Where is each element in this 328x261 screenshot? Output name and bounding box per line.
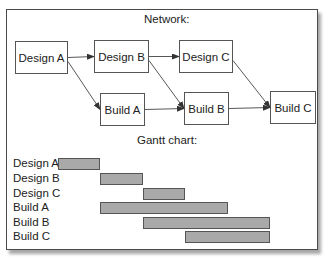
node-design-b: Design B [94, 40, 149, 73]
node-label: Design B [98, 51, 145, 63]
node-label: Build B [188, 103, 224, 115]
node-label: Build C [274, 102, 311, 114]
gantt-bar-design-b [100, 173, 142, 185]
gantt-row-label: Build A [13, 201, 49, 213]
edge-design_c-to-build_c [233, 61, 270, 108]
node-label: Design C [182, 51, 229, 63]
node-build-b: Build B [184, 92, 229, 125]
gantt-row-label: Design B [13, 172, 60, 184]
gantt-row-label: Design C [13, 187, 60, 199]
gantt-title: Gantt chart: [137, 134, 197, 146]
node-build-a: Build A [100, 93, 145, 126]
gantt-row-label: Design A [13, 157, 59, 169]
gantt-bar-build-c [185, 231, 270, 243]
gantt-bar-design-c [143, 188, 185, 200]
node-design-a: Design A [15, 41, 68, 74]
node-design-c: Design C [179, 40, 233, 73]
node-label: Build A [105, 104, 141, 116]
node-label: Design A [18, 52, 64, 64]
gantt-bar-design-a [58, 158, 100, 170]
gantt-row-label: Build C [13, 230, 50, 242]
gantt-bar-build-b [143, 217, 270, 229]
edge-design_a-to-design_b [68, 57, 94, 58]
edge-build_b-to-build_c [229, 108, 270, 109]
gantt-bar-build-a [100, 202, 227, 214]
gantt-row-label: Build B [13, 216, 49, 228]
edge-build_a-to-build_b [145, 109, 184, 110]
node-build-c: Build C [270, 91, 316, 124]
